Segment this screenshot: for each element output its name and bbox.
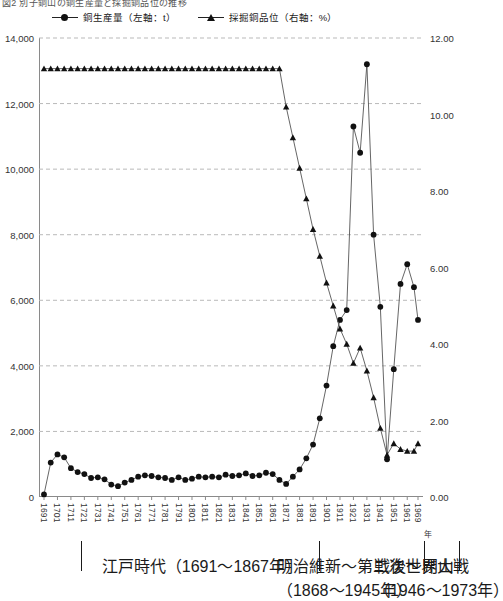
x-tick-label: 1711 <box>66 503 76 522</box>
period-label-line1: 戦後〜閉山 <box>374 553 503 577</box>
x-tick-label: 1781 <box>160 503 170 523</box>
x-axis-unit: 年 <box>424 528 432 539</box>
x-tick-label: 1951 <box>389 503 399 523</box>
period-annotations: 江戸時代（1691〜1867年）明治維新〜第二次世界大戦（1868〜1945年）… <box>39 545 476 585</box>
x-tick-label: 1691 <box>39 503 49 523</box>
y-tick-label: 8,000 <box>10 229 34 240</box>
plot-area: 02,0004,0006,0008,00010,00012,00014,000 … <box>39 38 423 497</box>
x-tick-label: 1861 <box>268 503 278 523</box>
chart-legend: 銅生産量（左軸：t） 採掘銅品位（右軸：%） <box>52 10 337 24</box>
y-tick-label: 0 <box>29 492 34 503</box>
legend-label-production: 銅生産量（左軸：t） <box>83 10 176 24</box>
x-tick-label: 1931 <box>362 503 372 523</box>
x-tick-label: 1821 <box>214 503 224 523</box>
y2-tick-label: 8.00 <box>430 186 449 197</box>
y-tick-label: 6,000 <box>10 295 34 306</box>
y2-tick-label: 0.00 <box>430 492 449 503</box>
y2-tick-label: 4.00 <box>430 339 449 350</box>
x-tick-label: 1881 <box>295 503 305 523</box>
circle-marker-icon <box>52 12 78 22</box>
period-divider <box>459 541 460 571</box>
x-tick-label: 1731 <box>93 503 103 523</box>
y-tick-label: 2,000 <box>10 426 34 437</box>
x-tick-label: 1771 <box>147 503 157 523</box>
period-divider <box>81 541 82 571</box>
x-tick-label: 1831 <box>227 503 237 523</box>
x-tick-label: 1741 <box>106 503 116 523</box>
y2-tick-label: 12.00 <box>430 33 454 44</box>
legend-label-grade: 採掘銅品位（右軸：%） <box>229 10 337 24</box>
period-label-line1: 江戸時代（1691〜1867年） <box>102 553 301 577</box>
y2-tick-label: 10.00 <box>430 109 454 120</box>
x-tick-label: 1841 <box>241 503 251 523</box>
period-label-postwar-closure: 戦後〜閉山（1946〜1973年） <box>374 553 503 601</box>
legend-item-production: 銅生産量（左軸：t） <box>52 10 176 24</box>
y-tick-label: 12,000 <box>5 98 34 109</box>
x-tick-label: 1851 <box>254 503 264 523</box>
y2-tick-label: 6.00 <box>430 262 449 273</box>
y-tick-label: 10,000 <box>5 164 34 175</box>
x-tick-label: 1941 <box>375 503 385 523</box>
legend-item-grade: 採掘銅品位（右軸：%） <box>198 10 337 24</box>
x-tick-label: 1791 <box>174 503 184 523</box>
x-tick-label: 1871 <box>281 503 291 523</box>
x-tick-label: 1721 <box>79 503 89 523</box>
y2-tick-label: 2.00 <box>430 415 449 426</box>
y-tick-label: 4,000 <box>10 360 34 371</box>
period-label-line2: （1946〜1973年） <box>374 577 503 601</box>
x-tick-label: 1911 <box>335 503 345 522</box>
x-tick-label: 1921 <box>348 503 358 523</box>
x-tick-label: 1701 <box>52 503 62 523</box>
x-tick-label: 1801 <box>187 503 197 523</box>
x-tick-label: 1811 <box>200 503 210 522</box>
figure-title: 図2 別子銅山の銅生産量と採掘銅品位の推移 <box>2 0 187 9</box>
y-tick-label: 14,000 <box>5 33 34 44</box>
x-tick-label: 1969 <box>413 503 423 523</box>
chart-canvas <box>39 38 423 497</box>
x-tick-label: 1751 <box>120 503 130 523</box>
x-tick-label: 1891 <box>308 503 318 523</box>
x-tick-label: 1761 <box>133 503 143 523</box>
x-tick-label: 1901 <box>322 503 332 523</box>
period-label-edo: 江戸時代（1691〜1867年） <box>102 553 301 577</box>
triangle-marker-icon <box>198 12 224 22</box>
x-tick-label: 1961 <box>402 503 412 523</box>
